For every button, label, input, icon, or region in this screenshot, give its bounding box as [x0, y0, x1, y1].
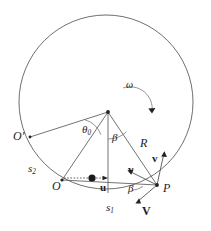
label-beta-lower: β: [128, 183, 133, 194]
apex-node-marker: [106, 110, 110, 114]
particle-dot: [88, 174, 95, 181]
label-O-prime: O′: [13, 130, 24, 142]
label-vector-v-left: v: [128, 164, 134, 175]
vector-V-lower-shaft: [137, 185, 157, 202]
O-prime-node-marker: [29, 136, 32, 139]
vector-v-up-head-icon: [161, 151, 167, 157]
label-beta-upper: β: [112, 132, 117, 143]
main-circle: [19, 15, 193, 189]
label-vector-v-up: v: [152, 153, 158, 164]
omega-rotation-arc: [123, 87, 152, 112]
omega-arrow-head-icon: [148, 108, 155, 114]
label-R: R: [140, 137, 147, 149]
label-P: P: [163, 182, 170, 194]
u-arrow-head-icon: [103, 176, 109, 181]
chord-to-O-prime: [30, 112, 108, 137]
figure-root: O′ O P R ω θ0 β β s1 s2 u v v V: [0, 0, 211, 231]
label-vector-u: u: [100, 182, 106, 193]
label-omega: ω: [126, 80, 133, 90]
label-arc-s1: s1: [106, 202, 114, 215]
label-arc-s2: s2: [28, 163, 36, 176]
label-theta-zero: θ0: [82, 124, 91, 137]
geometry-diagram: [0, 0, 211, 231]
label-O: O: [52, 180, 61, 192]
label-vector-V-lower: V: [142, 205, 151, 217]
P-node-marker: [155, 183, 159, 187]
